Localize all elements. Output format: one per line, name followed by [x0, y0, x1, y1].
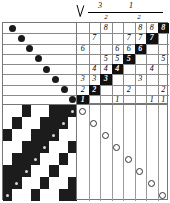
checkerboard-cell	[22, 189, 31, 201]
checkerboard-cell	[49, 189, 58, 201]
checkerboard-cell	[3, 141, 12, 153]
checkerboard-cell	[22, 141, 31, 153]
matrix-cell: 7	[135, 33, 147, 43]
matrix-cell: 7	[123, 33, 135, 43]
filled-dot	[35, 55, 42, 62]
checkerboard-cell	[40, 189, 49, 201]
checkerboard-dot	[71, 110, 74, 113]
matrix-cell: 7	[89, 33, 101, 43]
checkerboard-cell	[3, 105, 12, 117]
checkerboard-cell	[49, 141, 58, 153]
matrix-cell: 5	[158, 54, 170, 64]
fraction-0-denominator: 2	[95, 13, 117, 21]
checkerboard-dot	[62, 122, 65, 125]
checkerboard-cell	[3, 129, 12, 141]
checkerboard-cell	[49, 165, 58, 177]
matrix-cell: 2	[77, 85, 89, 95]
open-dot	[113, 144, 120, 151]
open-dot-column-rule	[123, 105, 124, 201]
matrix-cell: 4	[146, 64, 158, 74]
open-dot-column-rule	[158, 105, 159, 201]
staff-line	[3, 74, 77, 75]
matrix-cell: 2	[158, 85, 170, 95]
checkerboard-cell	[40, 129, 49, 141]
open-dot	[90, 120, 97, 127]
open-dot-column-rule	[100, 105, 101, 201]
checkerboard-cell	[40, 165, 49, 177]
checkerboard-cell	[12, 153, 21, 165]
checkerboard-cell	[12, 165, 21, 177]
checkerboard-cell	[3, 165, 12, 177]
matrix-cell: 4	[89, 64, 101, 74]
matrix-cell-highlighted: 6	[135, 44, 147, 54]
matrix-cell-highlighted: 3	[100, 74, 112, 84]
fraction-1-denominator: 2	[128, 13, 150, 21]
matrix-cell-highlighted: 7	[146, 33, 158, 43]
checkerboard-cell	[12, 141, 21, 153]
checkerboard-cell	[49, 117, 58, 129]
checkerboard-cell	[3, 117, 12, 129]
matrix-cell-highlighted: 2	[89, 85, 101, 95]
checkerboard-cell	[31, 165, 40, 177]
filled-dot	[26, 45, 33, 52]
checkerboard-cell	[31, 105, 40, 117]
checkerboard-panel	[2, 104, 76, 200]
open-dot	[79, 108, 86, 115]
staff-line	[3, 95, 77, 96]
checkerboard-cell	[59, 105, 68, 117]
matrix-cell: 3	[77, 74, 89, 84]
open-dot	[125, 156, 132, 163]
matrix-cell-highlighted: 4	[112, 64, 124, 74]
checkerboard-cell	[59, 165, 68, 177]
matrix-cell: 4	[100, 64, 112, 74]
matrix-cell-highlighted: 8	[158, 23, 170, 33]
checkerboard-cell	[59, 189, 68, 201]
checkerboard-cell	[40, 105, 49, 117]
checkerboard-cell	[3, 177, 12, 189]
matrix-cell: 6	[123, 44, 135, 54]
checkerboard-cell	[59, 129, 68, 141]
checkerboard-cell	[22, 129, 31, 141]
filled-dot	[18, 35, 25, 42]
checkerboard-cell	[49, 153, 58, 165]
staff-line	[3, 64, 77, 65]
matrix-cell: 8	[135, 23, 147, 33]
filled-dot-panel	[2, 22, 76, 104]
checkerboard-cell	[31, 117, 40, 129]
checkerboard-cell	[40, 153, 49, 165]
checkerboard-cell	[59, 153, 68, 165]
checkerboard-dot	[34, 158, 37, 161]
matrix-cell: 3	[135, 74, 147, 84]
matrix-cell: 8	[146, 23, 158, 33]
checkerboard-cell	[12, 117, 21, 129]
checkerboard-cell	[3, 153, 12, 165]
fraction-0-den-wrap: 2	[95, 13, 117, 21]
fraction-0-numerator: 3	[89, 2, 111, 10]
matrix-panel: 88887777666655554444333322221111	[76, 22, 168, 104]
open-dot	[102, 132, 109, 139]
matrix-cell: 6	[112, 44, 124, 54]
down-arrow-icon	[76, 4, 85, 19]
checkerboard-cell	[31, 189, 40, 201]
checkerboard-dot	[6, 194, 9, 197]
matrix-cell: 3	[89, 74, 101, 84]
filled-dot	[9, 25, 16, 32]
figure-header: 3 2 1 2	[0, 0, 170, 22]
checkerboard-cell	[49, 177, 58, 189]
matrix-cell-highlighted: 5	[123, 54, 135, 64]
checkerboard-cell	[40, 117, 49, 129]
matrix-cell: 5	[112, 54, 124, 64]
checkerboard-dot	[43, 146, 46, 149]
matrix-cell: 6	[77, 44, 89, 54]
checkerboard-cell	[31, 141, 40, 153]
staff-line	[3, 44, 77, 45]
fraction-1-den-wrap: 2	[128, 13, 150, 21]
checkerboard-cell	[22, 153, 31, 165]
checkerboard-cell	[12, 105, 21, 117]
checkerboard-cell	[59, 177, 68, 189]
checkerboard-cell	[12, 129, 21, 141]
checkerboard-cell	[49, 105, 58, 117]
open-dot	[148, 180, 155, 187]
open-dot-panel	[76, 104, 168, 200]
open-dot-column-rule	[89, 105, 90, 201]
